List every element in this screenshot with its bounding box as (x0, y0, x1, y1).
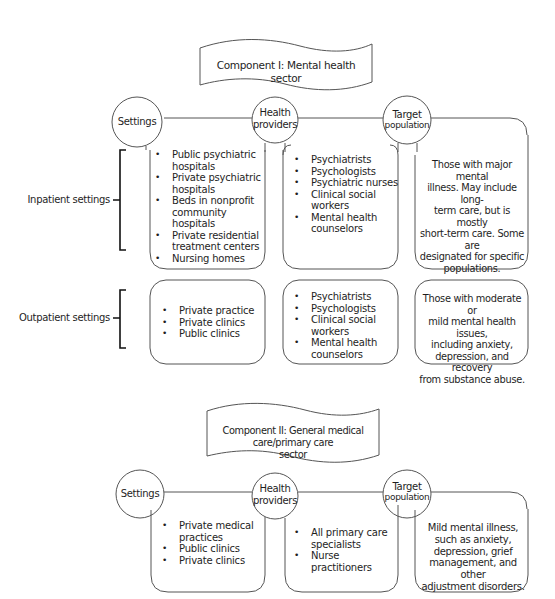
text-line: adjustment disorders. (419, 581, 527, 593)
list-item: Private practice (159, 305, 264, 317)
inpatient-label: Inpatient settings (27, 194, 110, 206)
c1-header-line (431, 118, 527, 135)
target-header-1: Target population (383, 109, 431, 131)
list-item: Mental healthcounselors (291, 212, 401, 235)
list-item: Private residentialtreatment centers (152, 230, 267, 253)
target-header-line1: Target (383, 481, 431, 492)
inpatient-target-text: Those with major mental illness. May inc… (418, 159, 526, 274)
outpatient-providers-list: Psychiatrists Psychologists Clinical soc… (291, 291, 401, 360)
target-header-line2: population (383, 120, 431, 131)
providers-header-1: Health providers (252, 107, 298, 131)
text-line: Those with moderate or (418, 293, 526, 316)
list-item: Clinical socialworkers (291, 314, 401, 337)
list-item: Clinical socialworkers (291, 189, 401, 212)
list-item: Private medicalpractices (159, 520, 264, 543)
target-header-line2: population (383, 492, 431, 503)
outpatient-bracket (113, 290, 126, 348)
banner-2-title: Component II: General medical care/prima… (201, 425, 385, 461)
text-line: designated for specific (418, 251, 526, 263)
text-line: Mild mental illness, (419, 522, 527, 534)
settings-header-1: Settings (112, 116, 162, 128)
list-item: Psychiatrists (291, 154, 401, 166)
inpatient-bracket (113, 150, 126, 250)
list-item: Public clinics (159, 543, 264, 555)
target-header-2: Target population (383, 481, 431, 503)
text-line: management, and other (419, 557, 527, 581)
list-item: Mental healthcounselors (291, 337, 401, 360)
inpatient-providers-list: Psychiatrists Psychologists Psychiatric … (291, 154, 401, 235)
providers-header-line2: providers (252, 119, 298, 131)
outpatient-label: Outpatient settings (19, 312, 110, 324)
c2-settings-list: Private medicalpractices Public clinics … (159, 520, 264, 566)
text-line: depression, and recovery (418, 351, 526, 374)
c2-providers-list: All primary carespecialists Nurse practi… (291, 527, 401, 573)
providers-header-line1: Health (252, 107, 298, 119)
providers-header-line2: providers (252, 495, 298, 507)
banner-1-title: Component I: Mental health sector (200, 59, 372, 85)
text-line: term care, but is mostly (418, 205, 526, 228)
outpatient-settings-list: Private practice Private clinics Public … (159, 305, 264, 340)
list-item: Psychiatric nurses (291, 177, 401, 189)
list-item: Private clinics (159, 555, 264, 567)
text-line: mild mental health issues, (418, 316, 526, 339)
text-line: Those with major mental (418, 159, 526, 182)
list-item: Nursing homes (152, 253, 267, 265)
text-line: illness. May include long- (418, 182, 526, 205)
banner-2-line1: Component II: General medical care/prima… (201, 425, 385, 449)
banner-2-line2: sector (201, 449, 385, 461)
text-line: such as anxiety, (419, 534, 527, 546)
text-line: short-term care. Some are (418, 228, 526, 251)
list-item: Public clinics (159, 328, 264, 340)
list-item: Psychiatrists (291, 291, 401, 303)
list-item: Private clinics (159, 317, 264, 329)
settings-header-2: Settings (115, 488, 165, 500)
list-item: Public psychiatrichospitals (152, 149, 267, 172)
target-header-line1: Target (383, 109, 431, 120)
list-item: Psychologists (291, 303, 401, 315)
text-line: depression, grief (419, 546, 527, 558)
providers-header-2: Health providers (252, 483, 298, 507)
text-line: including anxiety, (418, 339, 526, 351)
list-item: All primary carespecialists (291, 527, 401, 550)
list-item: Nurse practitioners (291, 550, 401, 573)
inpatient-settings-list: Public psychiatrichospitals Private psyc… (152, 149, 267, 264)
text-line: populations. (418, 263, 526, 275)
text-line: from substance abuse. (418, 374, 526, 386)
list-item: Private psychiatrichospitals (152, 172, 267, 195)
list-item: Beds in nonprofitcommunity hospitals (152, 195, 267, 230)
outpatient-target-text: Those with moderate or mild mental healt… (418, 293, 526, 385)
diagram-canvas: Component I: Mental health sector Settin… (0, 0, 555, 599)
list-item: Psychologists (291, 166, 401, 178)
providers-header-line1: Health (252, 483, 298, 495)
c2-target-text: Mild mental illness, such as anxiety, de… (419, 522, 527, 593)
